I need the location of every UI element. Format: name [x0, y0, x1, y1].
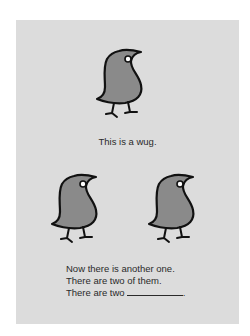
wug-bird-icon — [147, 172, 201, 244]
wug-bird-icon — [95, 47, 149, 119]
wug-caption: This is a wug. — [16, 136, 239, 148]
prompt-line-1: Now there is another one. — [66, 263, 185, 275]
prompt-line-2: There are two of them. — [66, 275, 185, 287]
wug-bird-icon — [50, 172, 104, 244]
wug-plural-prompt: Now there is another one. There are two … — [66, 263, 185, 299]
prompt-line-3-text: There are two — [66, 287, 125, 298]
wug-test-card: This is a wug. Now there is another one.… — [16, 20, 239, 324]
fill-in-blank — [127, 287, 183, 296]
prompt-line-3: There are two. — [66, 287, 185, 299]
blank-suffix: . — [183, 287, 186, 298]
